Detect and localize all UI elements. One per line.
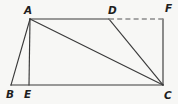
vertex-label-a: A xyxy=(24,5,32,16)
vertex-label-b: B xyxy=(6,89,14,100)
vertex-label-c: C xyxy=(164,90,172,101)
vertex-label-d: D xyxy=(108,5,117,16)
geometry-figure: ADFBEC xyxy=(0,0,178,104)
edge-ae xyxy=(29,19,30,85)
edge-dc xyxy=(109,19,163,85)
vertex-label-f: F xyxy=(165,3,172,14)
edge-layer xyxy=(11,19,163,85)
edge-ab xyxy=(11,19,30,85)
edge-ac xyxy=(30,19,163,85)
vertex-label-e: E xyxy=(24,89,31,100)
